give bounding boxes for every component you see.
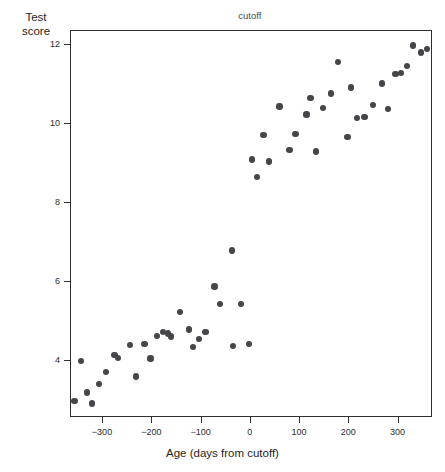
y-tick-label: 10 xyxy=(34,118,60,128)
data-point xyxy=(254,174,260,180)
data-point xyxy=(196,336,202,342)
data-points-layer xyxy=(71,31,431,416)
data-point xyxy=(111,352,117,358)
data-point xyxy=(190,344,196,350)
x-tick-mark xyxy=(201,417,202,423)
y-tick-label: 4 xyxy=(34,355,60,365)
data-point xyxy=(379,80,385,86)
y-tick-label: 8 xyxy=(34,197,60,207)
data-point xyxy=(313,148,319,154)
data-point xyxy=(385,106,391,112)
data-point xyxy=(238,301,244,307)
x-axis-label: Age (days from cutoff) xyxy=(0,447,445,459)
data-point xyxy=(147,355,153,361)
data-point xyxy=(307,95,313,101)
y-axis-label-line-1: Test xyxy=(8,10,64,24)
x-tick-label: −200 xyxy=(141,427,161,437)
x-tick-mark xyxy=(299,417,300,423)
cutoff-label: cutoff xyxy=(238,10,261,21)
data-point xyxy=(89,400,95,406)
data-point xyxy=(418,49,424,55)
x-tick-label: −100 xyxy=(190,427,210,437)
data-point xyxy=(141,341,147,347)
data-point xyxy=(392,71,398,77)
x-tick-label: 200 xyxy=(341,427,356,437)
data-point xyxy=(229,247,235,253)
data-point xyxy=(328,90,334,96)
x-tick-mark xyxy=(102,417,103,423)
data-point xyxy=(344,134,350,140)
data-point xyxy=(115,355,121,361)
data-point xyxy=(160,329,166,335)
scatter-plot-figure: Test score 4681012 −300−200−100010020030… xyxy=(0,0,445,472)
data-point xyxy=(320,105,326,111)
data-point xyxy=(410,42,416,48)
y-tick-label: 12 xyxy=(34,39,60,49)
x-tick-mark xyxy=(348,417,349,423)
data-point xyxy=(71,398,77,404)
x-tick-label: 0 xyxy=(247,427,252,437)
x-tick-mark xyxy=(151,417,152,423)
data-point xyxy=(103,369,109,375)
data-point xyxy=(127,342,133,348)
data-point xyxy=(249,156,255,162)
data-point xyxy=(348,84,354,90)
data-point xyxy=(186,326,192,332)
data-point xyxy=(335,59,341,65)
x-tick-label: 300 xyxy=(390,427,405,437)
data-point xyxy=(398,70,404,76)
x-tick-label: 100 xyxy=(292,427,307,437)
plot-frame xyxy=(70,30,432,417)
data-point xyxy=(168,333,174,339)
data-point xyxy=(211,283,217,289)
data-point xyxy=(84,389,90,395)
data-point xyxy=(177,309,183,315)
data-point xyxy=(165,330,171,336)
data-point xyxy=(230,343,236,349)
data-point xyxy=(133,373,139,379)
data-point xyxy=(154,333,160,339)
x-tick-label: −300 xyxy=(92,427,112,437)
data-point xyxy=(404,63,410,69)
data-point xyxy=(246,341,252,347)
data-point xyxy=(266,158,272,164)
data-point xyxy=(276,103,282,109)
data-point xyxy=(370,102,376,108)
data-point xyxy=(286,147,292,153)
data-point xyxy=(361,114,367,120)
data-point xyxy=(292,131,298,137)
data-point xyxy=(354,115,360,121)
data-point xyxy=(96,381,102,387)
data-point xyxy=(303,111,309,117)
data-point xyxy=(202,329,208,335)
y-tick-label: 6 xyxy=(34,276,60,286)
data-point xyxy=(424,46,430,52)
y-axis-label: Test score xyxy=(8,10,64,38)
x-tick-mark xyxy=(398,417,399,423)
y-axis-label-line-2: score xyxy=(8,24,64,38)
data-point xyxy=(260,132,266,138)
data-point xyxy=(78,358,84,364)
x-tick-mark xyxy=(250,417,251,423)
data-point xyxy=(217,301,223,307)
